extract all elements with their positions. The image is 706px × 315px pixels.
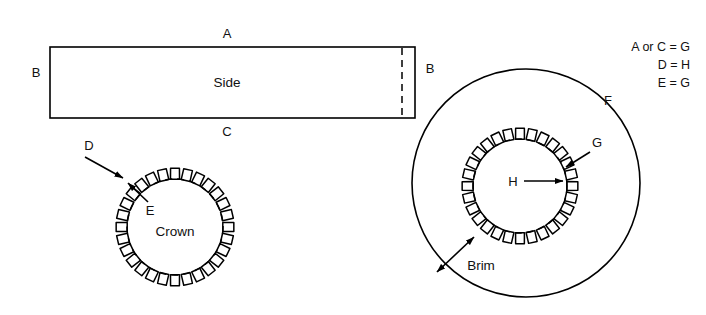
crown-seam-tab	[158, 273, 169, 286]
brim-seam-circle	[473, 139, 567, 233]
crown-tab-leader	[85, 157, 123, 178]
brim-seam-tab	[536, 132, 549, 146]
crown-seam-tab	[117, 233, 130, 244]
brim-seam-tab	[565, 169, 578, 180]
brim-seam-tab	[565, 192, 578, 203]
side-label: Side	[213, 75, 240, 90]
crown-seam-tab	[116, 222, 127, 231]
brim-seam-tab	[463, 169, 476, 180]
crown-seam-tab	[170, 168, 179, 179]
crown-seam-tab	[192, 172, 205, 186]
crown-label: Crown	[155, 224, 194, 239]
brim-seam-tab	[462, 182, 473, 191]
crown-seam-tab	[120, 244, 134, 257]
correspondence-legend: A or C = G D = H E = G	[631, 40, 690, 90]
crown-seam-tab	[223, 222, 234, 231]
crown-piece: Crown	[116, 168, 234, 286]
brim-tab-group	[462, 128, 578, 244]
side-edge-bottom-label: C	[222, 124, 231, 139]
crown-seam-tab	[170, 275, 179, 286]
legend-line-2: D = H	[658, 58, 690, 72]
brim-outer-label: F	[604, 93, 612, 108]
brim-seam-tab	[463, 192, 476, 203]
brim-seam-tab	[560, 202, 574, 215]
crown-seam-label: E	[146, 203, 155, 218]
crown-seam-tab	[216, 197, 230, 210]
brim-label: Brim	[467, 258, 495, 273]
crown-seam-tab	[120, 197, 134, 210]
crown-seam-tab	[221, 233, 234, 244]
crown-seam-tab	[192, 268, 205, 282]
diagram-canvas: Side A C B B Crown D E F Brim G	[0, 0, 706, 315]
brim-seam-tab	[491, 226, 504, 240]
crown-seam-tab	[145, 268, 158, 282]
brim-seam-label: G	[592, 135, 602, 150]
brim-seam-tab	[466, 157, 480, 170]
side-edge-left-label: B	[32, 65, 41, 80]
legend-line-3: E = G	[658, 76, 690, 90]
crown-seam-tab	[216, 244, 230, 257]
crown-seam-tab	[145, 172, 158, 186]
brim-seam-tab	[536, 226, 549, 240]
brim-seam-tab	[503, 231, 514, 244]
crown-tab-label: D	[84, 138, 93, 153]
brim-seam-tab	[503, 129, 514, 142]
legend-line-1: A or C = G	[631, 40, 690, 54]
side-edge-right-label: B	[426, 61, 435, 76]
side-edge-top-label: A	[223, 26, 232, 41]
brim-seam-tab	[567, 182, 578, 191]
brim-seam-tab	[466, 202, 480, 215]
side-piece: Side	[50, 47, 415, 118]
crown-seam-tab	[181, 273, 192, 286]
brim-seam-tab	[516, 128, 525, 139]
brim-tab-label: H	[508, 174, 517, 189]
brim-seam-tab	[491, 132, 504, 146]
hat-pattern-diagram: Side A C B B Crown D E F Brim G	[0, 0, 706, 315]
brim-seam-tab	[516, 233, 525, 244]
